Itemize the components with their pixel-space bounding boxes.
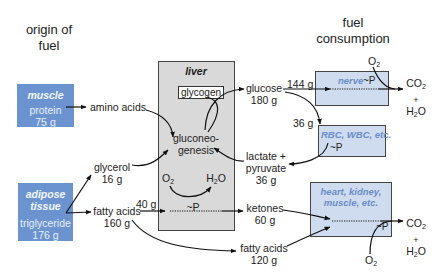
glycogen-curve <box>207 97 218 132</box>
glucose-to-rbc-arrow <box>285 92 320 124</box>
o2-to-h2o-arrow <box>170 186 211 197</box>
lactate-to-gluconeogenesis-arrow <box>214 148 244 161</box>
gluconeogenesis-to-glucose-arrow <box>205 89 244 130</box>
heart-o2-curve <box>370 221 392 254</box>
nerve-o2-curve <box>373 67 395 89</box>
rbc-to-lactate-arrow <box>289 143 328 164</box>
glycerol-to-gluconeogenesis-arrow <box>132 150 168 166</box>
fatty-acids-to-heart-arrow <box>287 227 330 246</box>
adipose-to-fatty-acids-arrow <box>66 212 91 213</box>
adipose-to-glycerol-arrow <box>66 175 91 213</box>
fatty-acids-to-fatty-acids-out-arrow <box>132 220 236 251</box>
amino-acids-to-gluconeogenesis-arrow <box>146 110 173 137</box>
arrows-layer <box>0 0 440 276</box>
ketones-to-heart-arrow <box>283 210 330 219</box>
